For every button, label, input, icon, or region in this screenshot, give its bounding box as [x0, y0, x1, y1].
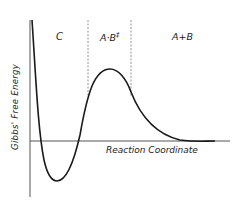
- energy-diagram-svg: [0, 0, 242, 205]
- region-label-transition-state: A·B‡: [100, 31, 120, 43]
- y-axis-label: Gibbs' Free Energy: [10, 64, 20, 150]
- x-axis-label: Reaction Coordinate: [106, 145, 198, 155]
- double-dagger-superscript: ‡: [116, 31, 120, 39]
- energy-curve: [32, 20, 215, 181]
- region-label-c: C: [56, 31, 63, 42]
- energy-diagram: C A·B‡ A+B Reaction Coordinate Gibbs' Fr…: [0, 0, 242, 205]
- region-label-products: A+B: [172, 31, 193, 42]
- transition-state-label: A·B: [100, 32, 116, 43]
